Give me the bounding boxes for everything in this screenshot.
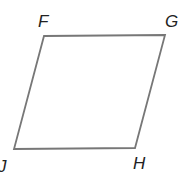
vertex-label-j: J <box>0 157 7 176</box>
vertex-label-g: G <box>165 12 178 31</box>
parallelogram-diagram: F G H J <box>0 0 185 185</box>
vertex-label-h: H <box>133 154 146 173</box>
vertex-label-f: F <box>38 12 50 31</box>
parallelogram-fghj <box>14 35 165 149</box>
